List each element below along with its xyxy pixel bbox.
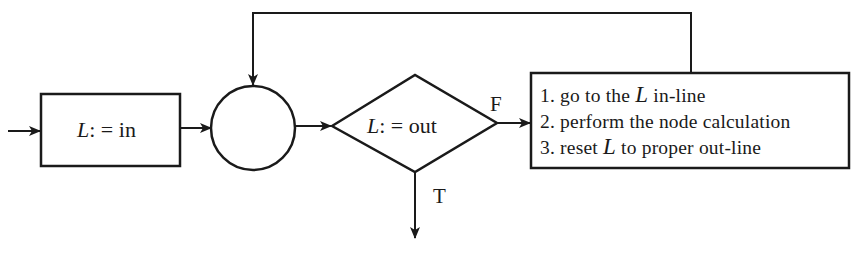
step-text: in-line (653, 85, 705, 106)
process-step-1: 1. go to the L in-line (540, 82, 790, 109)
step-number: 3. (540, 137, 555, 158)
init-box-label: L: = in (77, 119, 136, 141)
decision-op: : = (379, 113, 403, 138)
decision-value: out (409, 113, 437, 138)
decision-var: L (367, 113, 379, 138)
init-op: : = (89, 117, 113, 142)
junction-circle (211, 86, 295, 170)
init-value: in (119, 117, 136, 142)
process-steps: 1. go to the L in-line 2. perform the no… (540, 82, 790, 161)
step-var: L (635, 82, 648, 107)
step-var: L (603, 134, 616, 159)
process-step-2: 2. perform the node calculation (540, 109, 790, 135)
step-number: 2. (540, 111, 555, 132)
step-text: reset (560, 137, 598, 158)
step-number: 1. (540, 85, 555, 106)
init-var: L (77, 117, 89, 142)
step-text: go to the (560, 85, 630, 106)
step-text: to proper out-line (621, 137, 761, 158)
decision-label: L: = out (367, 115, 437, 137)
true-branch-label: T (433, 186, 446, 207)
process-step-3: 3. reset L to proper out-line (540, 134, 790, 161)
step-text: perform the node calculation (560, 111, 790, 132)
false-branch-label: F (490, 94, 502, 115)
